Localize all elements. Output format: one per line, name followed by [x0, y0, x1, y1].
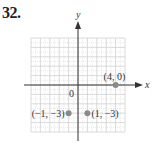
x-axis-label: x: [144, 79, 150, 90]
point-label: (4, 0): [104, 71, 126, 83]
data-point: [113, 82, 119, 88]
point-label: (−1, −3): [32, 108, 65, 120]
y-axis-arrow-icon: [75, 21, 81, 29]
data-point: [66, 110, 72, 116]
data-point: [84, 110, 90, 116]
origin-label: 0: [69, 88, 74, 99]
point-label: (1, −3): [91, 108, 118, 120]
x-axis-arrow-icon: [135, 82, 143, 88]
coordinate-plane: x y 0 (4, 0)(−1, −3)(1, −3): [0, 0, 153, 144]
y-axis-label: y: [75, 9, 81, 20]
